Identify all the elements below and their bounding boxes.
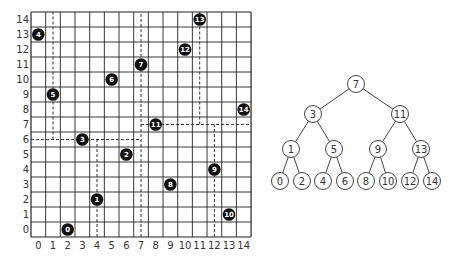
y-tick-label: 13 xyxy=(16,29,29,40)
tree-node: 9 xyxy=(370,141,387,158)
tree-edge xyxy=(381,157,386,173)
y-tick-label: 0 xyxy=(23,224,29,235)
point-label: 1 xyxy=(95,196,100,204)
point-label: 13 xyxy=(195,16,205,24)
x-tick-label: 1 xyxy=(50,240,56,251)
point-label: 5 xyxy=(51,91,56,99)
data-point: 2 xyxy=(120,148,133,161)
y-tick-label: 7 xyxy=(23,119,29,130)
y-tick-label: 9 xyxy=(23,89,29,100)
data-point: 9 xyxy=(208,163,221,176)
data-point: 12 xyxy=(179,43,192,56)
y-tick-label: 11 xyxy=(16,59,29,70)
y-tick-label: 14 xyxy=(16,14,29,25)
data-point: 6 xyxy=(105,73,118,86)
y-tick-label: 5 xyxy=(23,149,29,160)
tree-node: 14 xyxy=(424,173,441,190)
tree-node-label: 9 xyxy=(375,144,381,155)
tree-node-label: 4 xyxy=(320,176,326,187)
tree-node-label: 5 xyxy=(331,144,337,155)
x-tick-label: 5 xyxy=(108,240,114,251)
tree-node-label: 7 xyxy=(353,79,359,90)
tree-edge xyxy=(369,157,375,173)
tree-edge xyxy=(413,157,418,173)
tree-node: 1 xyxy=(283,141,300,158)
data-point: 13 xyxy=(193,13,206,26)
tree-node: 0 xyxy=(272,173,289,190)
y-tick-label: 10 xyxy=(16,74,29,85)
tree-edge xyxy=(363,89,393,109)
tree-node-label: 3 xyxy=(310,109,316,120)
tree-node-label: 6 xyxy=(342,176,348,187)
data-point: 14 xyxy=(237,103,250,116)
point-label: 6 xyxy=(109,76,114,84)
tree-node: 2 xyxy=(294,173,311,190)
tree-edge xyxy=(296,121,309,142)
point-label: 4 xyxy=(36,31,41,39)
tree-node: 5 xyxy=(326,141,343,158)
data-point: 5 xyxy=(47,88,60,101)
y-tick-label: 4 xyxy=(23,164,29,175)
tree-edge xyxy=(326,157,331,173)
tree-node: 7 xyxy=(348,76,365,93)
split-lines xyxy=(31,12,251,237)
point-label: 11 xyxy=(151,121,161,129)
tree-edge xyxy=(317,121,329,141)
y-tick-label: 6 xyxy=(23,134,29,145)
x-tick-label: 8 xyxy=(153,240,159,251)
y-tick-label: 8 xyxy=(23,104,29,115)
x-tick-label: 2 xyxy=(64,240,70,251)
x-tick-label: 4 xyxy=(94,240,100,251)
y-tick-label: 12 xyxy=(16,44,29,55)
x-tick-label: 3 xyxy=(79,240,85,251)
point-label: 3 xyxy=(80,136,85,144)
point-label: 7 xyxy=(139,61,144,69)
tree-node: 6 xyxy=(337,173,354,190)
tree-node-label: 8 xyxy=(363,176,369,187)
data-point: 3 xyxy=(76,133,89,146)
y-tick-label: 2 xyxy=(23,194,29,205)
point-label: 14 xyxy=(239,106,249,114)
y-tick-label: 1 xyxy=(23,209,29,220)
point-label: 2 xyxy=(124,151,129,159)
tree-node: 10 xyxy=(380,173,397,190)
tree-node-label: 11 xyxy=(394,109,407,120)
tree-edge xyxy=(424,157,429,173)
data-point: 0 xyxy=(61,223,74,236)
tree-node-label: 12 xyxy=(404,176,417,187)
tree-node-label: 14 xyxy=(426,176,439,187)
x-tick-label: 10 xyxy=(179,240,192,251)
x-tick-label: 13 xyxy=(223,240,236,251)
tree-edge xyxy=(337,157,342,173)
point-label: 8 xyxy=(168,181,173,189)
tree-node-label: 2 xyxy=(299,176,305,187)
x-tick-label: 12 xyxy=(208,240,221,251)
point-label: 9 xyxy=(212,166,217,174)
x-tick-label: 6 xyxy=(123,240,129,251)
y-tick-label: 3 xyxy=(23,179,29,190)
kd-tree-diagram: 0123456789101112131401234567891011121314… xyxy=(0,0,454,260)
point-label: 12 xyxy=(180,46,190,54)
data-point: 10 xyxy=(223,208,236,221)
tree-node: 12 xyxy=(402,173,419,190)
data-point: 4 xyxy=(32,28,45,41)
tree-node: 13 xyxy=(413,141,430,158)
tree-node: 8 xyxy=(358,173,375,190)
point-label: 10 xyxy=(224,211,234,219)
axis-labels: 0123456789101112131401234567891011121314 xyxy=(16,14,250,251)
tree-node-label: 13 xyxy=(415,144,428,155)
x-tick-label: 9 xyxy=(167,240,173,251)
data-point: 7 xyxy=(135,58,148,71)
tree-node-label: 0 xyxy=(277,176,283,187)
tree-node-label: 1 xyxy=(288,144,294,155)
binary-tree: 73111591302468101214 xyxy=(272,76,441,190)
tree-edge xyxy=(294,157,299,173)
tree-edge xyxy=(404,121,416,141)
data-point: 11 xyxy=(149,118,162,131)
tree-node: 3 xyxy=(305,106,322,123)
tree-edge xyxy=(283,157,288,173)
tree-node: 4 xyxy=(315,173,332,190)
x-tick-label: 7 xyxy=(138,240,144,251)
tree-node: 11 xyxy=(392,106,409,123)
x-tick-label: 14 xyxy=(237,240,250,251)
